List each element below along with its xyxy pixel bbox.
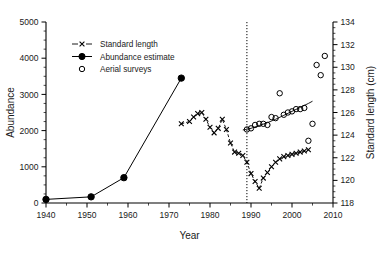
y-right-tick-label: 124: [341, 130, 355, 140]
x-tick-label: 1980: [201, 210, 220, 220]
x-tick-label: 2000: [283, 210, 302, 220]
marker-filled-circle: [43, 196, 49, 202]
marker-open-circle: [277, 91, 282, 96]
x-tick-label: 2010: [324, 210, 343, 220]
marker-open-circle: [322, 53, 327, 58]
marker-cross: [306, 147, 311, 152]
standard-length-line: [181, 113, 308, 189]
series-aerial-survey-trend: [243, 101, 313, 130]
marker-filled-circle: [79, 53, 85, 59]
y-right-tick-label: 126: [341, 108, 355, 118]
legend-swatch-aerial-surveys: [79, 66, 84, 71]
y-right-tick-label: 120: [341, 175, 355, 185]
marker-open-circle: [306, 138, 311, 143]
legend-item-label: Standard length: [100, 40, 158, 49]
legend-item-label: Abundance estimate: [100, 53, 175, 62]
marker-cross: [220, 117, 225, 122]
aerial-trend-line: [243, 101, 313, 130]
x-tick-label: 1950: [78, 210, 97, 220]
legend-item-label: Aerial surveys: [100, 65, 151, 74]
y-left-tick-label: 1000: [20, 162, 39, 172]
marker-open-circle: [318, 72, 323, 77]
marker-cross: [261, 176, 266, 181]
y-left-tick-label: 3000: [20, 90, 39, 100]
x-tick-label: 1990: [242, 210, 261, 220]
marker-filled-circle: [88, 194, 94, 200]
marker-filled-circle: [178, 75, 184, 81]
abundance-line: [46, 78, 181, 199]
y-right-tick-label: 130: [341, 62, 355, 72]
y-right-tick-label: 118: [341, 198, 355, 208]
y-right-tick-label: 132: [341, 40, 355, 50]
y-right-tick-label: 128: [341, 85, 355, 95]
series-abundance-estimate: [43, 75, 185, 203]
y-left-tick-label: 4000: [20, 53, 39, 63]
marker-cross: [228, 141, 233, 146]
marker-cross: [216, 126, 221, 131]
series-aerial-surveys: [244, 53, 327, 143]
chart-canvas: 1940195019601970198019902000201001000200…: [0, 0, 388, 256]
marker-cross: [80, 42, 85, 47]
x-tick-label: 1970: [160, 210, 179, 220]
x-tick-label: 1960: [119, 210, 138, 220]
y-left-tick-label: 5000: [20, 17, 39, 27]
y-left-tick-label: 2000: [20, 126, 39, 136]
marker-open-circle: [310, 121, 315, 126]
y-left-axis-title: Abundance: [5, 87, 16, 138]
marker-cross: [269, 164, 274, 169]
chart-legend: Standard lengthAbundance estimateAerial …: [72, 40, 175, 74]
marker-cross: [249, 171, 254, 176]
y-right-tick-label: 122: [341, 153, 355, 163]
marker-cross: [253, 179, 258, 184]
figure-container: 1940195019601970198019902000201001000200…: [0, 0, 388, 256]
marker-filled-circle: [121, 174, 127, 180]
marker-cross: [265, 170, 270, 175]
marker-open-circle: [314, 62, 319, 67]
marker-cross: [204, 117, 209, 122]
marker-cross: [208, 125, 213, 130]
series-standard-length: [179, 110, 311, 191]
x-tick-label: 1940: [37, 210, 56, 220]
x-axis-title: Year: [179, 230, 200, 241]
y-right-axis-title: Standard length (cm): [365, 66, 376, 159]
marker-cross: [224, 127, 229, 132]
marker-cross: [257, 186, 262, 191]
y-right-tick-label: 134: [341, 17, 355, 27]
y-left-tick-label: 0: [34, 198, 39, 208]
marker-cross: [212, 130, 217, 135]
